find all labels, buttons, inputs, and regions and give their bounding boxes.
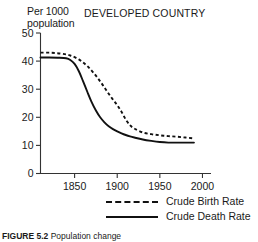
y-tick-label: 10 xyxy=(22,139,34,151)
axis-lines xyxy=(41,33,212,174)
legend-item-crude-birth-rate: Crude Birth Rate xyxy=(104,193,256,208)
series-line-crude-birth-rate xyxy=(41,53,194,139)
axes xyxy=(36,33,211,178)
y-tick-label: 20 xyxy=(22,111,34,123)
y-tick-label: 0 xyxy=(28,167,34,179)
y-axis-ticks xyxy=(36,33,41,174)
figure-caption: FIGURE 5.2 Population change xyxy=(2,231,121,241)
data-series-group xyxy=(41,53,194,143)
figure-container: Per 1000population DEVELOPED COUNTRY 010… xyxy=(0,0,258,242)
x-tick-label: 1900 xyxy=(106,180,130,192)
x-axis-ticks xyxy=(75,174,203,179)
x-tick-label: 1950 xyxy=(148,180,172,192)
y-tick-label: 50 xyxy=(22,27,34,39)
x-axis-tick-labels: 1850190019502000 xyxy=(63,180,214,192)
legend-swatch-solid-icon xyxy=(104,210,160,222)
figure-caption-text: Population change xyxy=(51,231,121,241)
y-tick-label: 40 xyxy=(22,55,34,67)
legend-item-crude-death-rate: Crude Death Rate xyxy=(104,208,256,223)
series-line-crude-death-rate xyxy=(41,57,194,142)
y-axis-tick-labels: 01020304050 xyxy=(22,27,34,180)
x-tick-label: 1850 xyxy=(63,180,87,192)
figure-caption-number: FIGURE 5.2 xyxy=(2,231,48,241)
legend-swatch-dashed-icon xyxy=(104,195,160,207)
y-tick-label: 30 xyxy=(22,83,34,95)
x-tick-label: 2000 xyxy=(191,180,215,192)
legend-label-crude-birth-rate: Crude Birth Rate xyxy=(160,195,244,207)
chart-legend: Crude Birth Rate Crude Death Rate xyxy=(104,193,256,223)
legend-label-crude-death-rate: Crude Death Rate xyxy=(160,210,251,222)
